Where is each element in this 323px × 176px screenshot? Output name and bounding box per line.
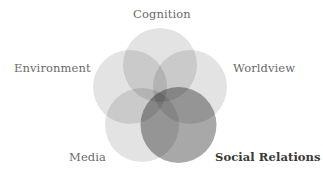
label-environment: Environment [14,63,91,75]
venn-diagram: Cognition Environment Worldview Media So… [0,0,323,176]
label-worldview: Worldview [233,63,295,75]
circle-social-relations [141,87,217,163]
label-media: Media [69,152,106,164]
label-social-relations: Social Relations [215,152,321,164]
label-cognition: Cognition [133,9,191,21]
